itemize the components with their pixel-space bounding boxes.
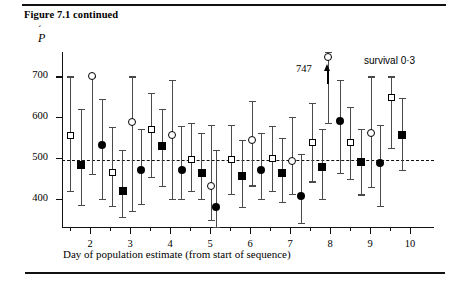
annotation-survival: survival 0·3: [364, 55, 415, 66]
x-tick-major: [410, 227, 411, 234]
x-tick-minor: [270, 227, 271, 231]
marker-filled-circle: [336, 117, 344, 125]
marker-filled-square: [398, 131, 406, 139]
x-tick-major: [170, 227, 171, 234]
x-tick-minor: [110, 227, 111, 231]
marker-filled-square: [119, 187, 127, 195]
error-bar-cap-upper: [99, 99, 106, 100]
x-tick-minor: [350, 227, 351, 231]
plot-area: 400500600700 2345678910 747 survival 0·3: [62, 52, 434, 220]
error-bar: [201, 133, 202, 199]
error-bar-cap-upper: [169, 80, 176, 81]
figure-caption: Figure 7.1 continued: [24, 9, 118, 20]
error-bar-cap-lower: [178, 199, 185, 200]
error-bar-cap-upper: [388, 76, 395, 77]
error-bar-cap-upper: [258, 133, 265, 134]
error-bar: [122, 150, 123, 217]
error-bar-cap-lower: [249, 185, 256, 186]
error-bar-cap-upper: [298, 154, 305, 155]
marker-open-square: [388, 94, 395, 101]
marker-filled-circle: [212, 203, 220, 211]
marker-filled-circle: [137, 166, 145, 174]
error-bar-cap-upper: [399, 98, 406, 99]
error-bar-cap-lower: [258, 199, 265, 200]
y-tick-label: 700: [14, 69, 48, 80]
error-bar-cap-lower: [368, 187, 375, 188]
figure-page: Figure 7.1 continued ́P 400500600700 234…: [0, 0, 471, 290]
y-axis-label: ́P: [38, 31, 45, 46]
error-bar-cap-lower: [358, 194, 365, 195]
error-bar-cap-upper: [309, 103, 316, 104]
error-bar: [181, 126, 182, 198]
x-tick-major: [370, 227, 371, 234]
marker-open-square: [148, 126, 155, 133]
error-bar-cap-lower: [188, 191, 195, 192]
error-bar-cap-upper: [377, 125, 384, 126]
error-bar-cap-lower: [269, 191, 276, 192]
error-bar-cap-upper: [198, 133, 205, 134]
x-tick-major: [250, 227, 251, 234]
error-bar-cap-lower: [228, 194, 235, 195]
error-bar-cap-upper: [188, 123, 195, 124]
error-bar-cap-upper: [159, 109, 166, 110]
x-tick-minor: [390, 227, 391, 231]
error-bar: [340, 80, 341, 174]
marker-filled-square: [77, 161, 85, 169]
error-bar: [81, 109, 82, 205]
error-bar-cap-lower: [337, 173, 344, 174]
marker-open-square: [309, 139, 316, 146]
marker-open-square: [228, 156, 235, 163]
error-bar: [102, 99, 103, 200]
y-tick-label: 400: [14, 192, 48, 203]
error-bar-cap-lower: [89, 174, 96, 175]
marker-open-circle: [207, 182, 215, 190]
error-bar-cap-lower: [109, 206, 116, 207]
error-bar-cap-upper: [67, 76, 74, 77]
marker-open-square: [269, 155, 276, 162]
error-bar-cap-lower: [99, 199, 106, 200]
error-bar: [292, 117, 293, 194]
error-bar-cap-upper: [319, 129, 326, 130]
error-bar: [132, 76, 133, 210]
error-bar-cap-lower: [377, 206, 384, 207]
error-bar-cap-lower: [325, 123, 332, 124]
error-bar-cap-upper: [279, 138, 286, 139]
x-tick-minor: [230, 227, 231, 231]
error-bar-cap-upper: [239, 140, 246, 141]
marker-filled-square: [278, 169, 286, 177]
x-tick-label: 9: [359, 238, 381, 249]
x-tick-major: [130, 227, 131, 234]
x-tick-label: 8: [319, 238, 341, 249]
error-bar-cap-lower: [169, 199, 176, 200]
x-tick-major: [90, 227, 91, 234]
marker-filled-square: [158, 142, 166, 150]
error-bar: [328, 52, 329, 123]
error-bar-cap-upper: [78, 109, 85, 110]
x-tick-minor: [70, 227, 71, 231]
y-tick-label: 500: [14, 151, 48, 162]
marker-open-square: [188, 156, 195, 163]
error-bar-cap-lower: [129, 211, 136, 212]
error-bar-cap-lower: [119, 217, 126, 218]
marker-open-circle: [288, 157, 296, 165]
error-bar-cap-upper: [213, 150, 220, 151]
marker-filled-circle: [178, 166, 186, 174]
marker-filled-circle: [297, 192, 305, 200]
error-bar-cap-lower: [388, 148, 395, 149]
error-bar-cap-upper: [368, 76, 375, 77]
marker-open-circle: [248, 136, 256, 144]
marker-open-circle: [88, 72, 96, 80]
x-tick-minor: [190, 227, 191, 231]
error-bar-cap-upper: [337, 80, 344, 81]
marker-filled-square: [238, 172, 246, 180]
marker-open-square: [109, 169, 116, 176]
marker-open-circle: [324, 53, 332, 61]
error-bar-cap-upper: [119, 150, 126, 151]
error-bar-cap-upper: [138, 129, 145, 130]
x-axis-title: Day of population estimate (from start o…: [63, 248, 291, 260]
marker-open-circle: [367, 129, 375, 137]
error-bar-cap-upper: [249, 101, 256, 102]
error-bar-cap-upper: [358, 129, 365, 130]
error-bar-cap-lower: [319, 199, 326, 200]
error-bar-cap-upper: [109, 127, 116, 128]
